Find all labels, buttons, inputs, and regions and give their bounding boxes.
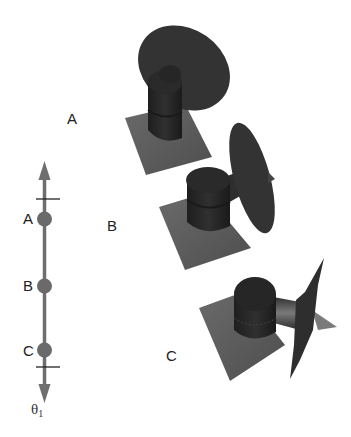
robot-model-c — [199, 258, 337, 381]
config-label-a: A — [67, 110, 77, 127]
robot-model-a — [121, 8, 246, 175]
axis-point-label-a: A — [23, 210, 33, 227]
axis-label-theta: θ — [31, 401, 38, 417]
config-label-c: C — [166, 347, 177, 364]
axis-arrow-down-icon — [39, 384, 51, 403]
axis-label: θ1 — [31, 401, 43, 419]
theta-axis: A B C θ1 — [23, 161, 60, 419]
axis-label-subscript: 1 — [38, 408, 43, 419]
axis-point-b — [37, 279, 52, 294]
fin-c — [312, 310, 337, 330]
axis-arrow-up-icon — [39, 161, 51, 180]
cylinder-b — [186, 167, 230, 231]
disk-b-edge — [268, 172, 275, 183]
cylinder-a — [148, 65, 182, 141]
cylinder-c — [234, 277, 276, 339]
axis-point-a — [37, 212, 52, 227]
axis-point-c — [37, 343, 52, 358]
axis-point-label-c: C — [23, 342, 34, 359]
figure-canvas: A B C θ1 A B C — [0, 0, 351, 437]
config-label-b: B — [107, 217, 117, 234]
axis-point-label-b: B — [23, 277, 33, 294]
